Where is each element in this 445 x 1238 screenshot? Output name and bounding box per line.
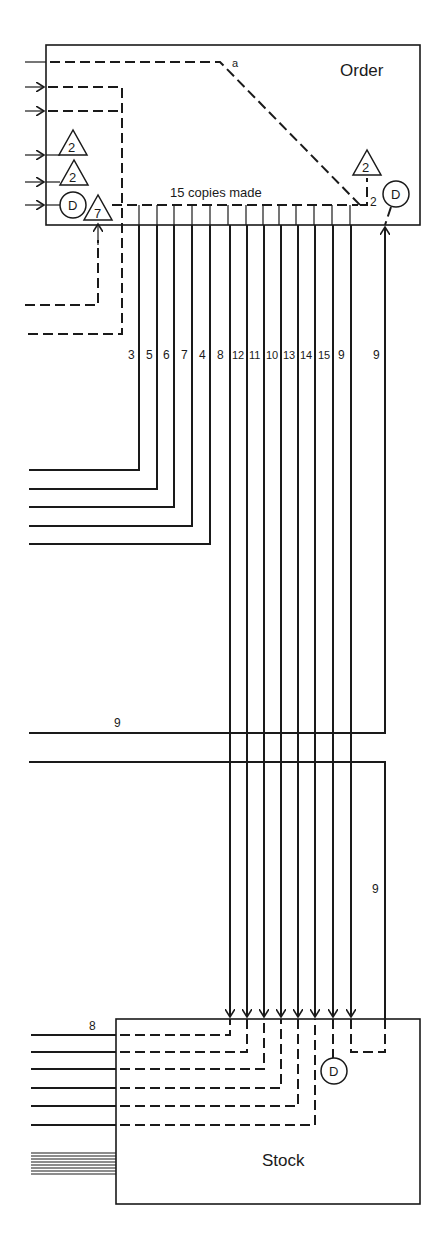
- line-label: 8: [217, 348, 224, 362]
- stacked-input-lines: [31, 1153, 116, 1174]
- triangle-symbol: 2: [353, 150, 381, 175]
- horizontal-9-label: 9: [114, 716, 121, 730]
- stock-input-8-label: 8: [89, 1019, 96, 1033]
- stock-label: Stock: [262, 1151, 305, 1170]
- dashed-path-a: [50, 62, 360, 205]
- line-label: 5: [146, 348, 153, 362]
- triangle-label: 7: [94, 206, 101, 221]
- triangle-label: 2: [68, 140, 75, 155]
- line-label: 14: [300, 349, 312, 361]
- return-line-label: 9: [373, 348, 380, 362]
- return-line-9: 9 9: [29, 227, 385, 1019]
- triangle-label: 2: [69, 170, 76, 185]
- point-a-label: a: [232, 57, 239, 69]
- circle-label: D: [68, 198, 77, 213]
- branch-2: [360, 178, 367, 205]
- line-label: 13: [283, 349, 295, 361]
- triangle-label: 2: [362, 160, 369, 175]
- line-label: 12: [232, 349, 244, 361]
- line-label: 7: [181, 348, 188, 362]
- triangle-symbol: 2: [60, 160, 88, 185]
- triangle-symbol: 2: [59, 130, 87, 155]
- circle-d-symbol: D: [321, 1058, 347, 1084]
- vertical-9-label: 9: [372, 882, 379, 896]
- dashed-path-7: [25, 240, 98, 305]
- triangle-symbol: 7: [84, 195, 112, 221]
- circle-label: D: [329, 1064, 338, 1079]
- branch-2-label: 2: [370, 195, 377, 209]
- line-label: 15: [318, 349, 330, 361]
- stock-box: Stock 8 D: [31, 1019, 420, 1204]
- flow-diagram: Order a 2 2 D: [0, 0, 445, 1238]
- circle-d-symbol: D: [383, 181, 409, 207]
- copy-line-labels: 3 5 6 7 4 8 12 11 10 13 14 15 9 9: [128, 348, 380, 362]
- copies-label: 15 copies made: [170, 185, 262, 200]
- line-label: 4: [199, 348, 206, 362]
- copies-bus: 15 copies made 2 2 D: [112, 150, 409, 225]
- dashed-to-circle: [385, 207, 391, 225]
- line-label: 6: [163, 348, 170, 362]
- copy-lines: 3 5 6 7 4 8 12 11 10 13 14 15 9 9: [29, 225, 380, 1017]
- order-label: Order: [340, 61, 384, 80]
- line-label: 3: [128, 348, 135, 362]
- line-label: 9: [338, 348, 345, 362]
- line-label: 11: [249, 349, 260, 361]
- circle-d-symbol: D: [60, 192, 86, 218]
- bus-stubs: [139, 205, 350, 225]
- line-label: 10: [266, 349, 278, 361]
- circle-label: D: [391, 187, 400, 202]
